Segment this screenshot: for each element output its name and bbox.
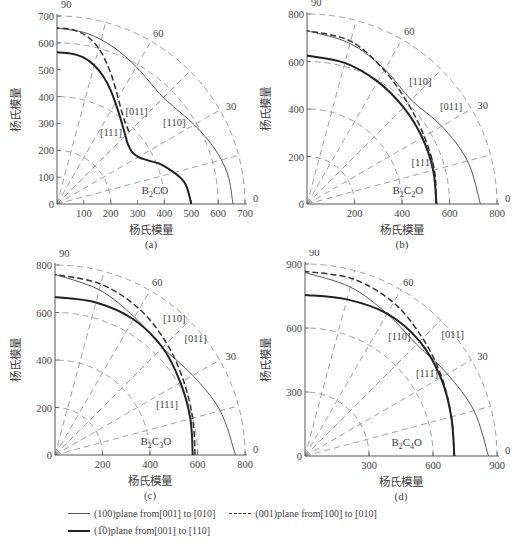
- y-tick-label: 400: [36, 355, 52, 366]
- series-thin-curve: [55, 275, 236, 456]
- grid-radial: [307, 20, 356, 204]
- grid-radial: [57, 155, 239, 204]
- angle-label: 60: [153, 28, 164, 39]
- x-tick-label: 800: [489, 208, 505, 219]
- annotation-label: [111]: [416, 368, 438, 379]
- series-dashed-curve: [305, 271, 454, 456]
- annotation-label: [011]: [440, 101, 462, 112]
- panel-label-d: (d): [395, 490, 408, 502]
- y-tick-label: 800: [288, 9, 304, 20]
- polar-chart-a: 1002003004005006007000100200300400500600…: [0, 0, 262, 250]
- x-axis-title: 杨氏模量: [129, 223, 173, 236]
- panel-label-a: (a): [145, 238, 158, 250]
- x-tick-label: 600: [210, 208, 226, 219]
- x-tick-label: 500: [183, 208, 199, 219]
- y-tick-label: 0: [49, 199, 54, 210]
- y-axis-title: 杨氏模量: [259, 338, 272, 382]
- polar-chart-b: 20040060080002004006008009060300[110][01…: [250, 0, 525, 250]
- y-tick-label: 200: [36, 403, 52, 414]
- y-tick-label: 900: [286, 259, 302, 270]
- grid-radial: [305, 290, 401, 456]
- series-thick-curve: [57, 52, 191, 204]
- y-tick-label: 100: [38, 172, 54, 183]
- legend-item-1-10-plane: (1̅0)plane from[001] to [110]: [68, 525, 210, 536]
- legend-item-100-plane: (100)plane from[001] to [010]: [68, 508, 215, 519]
- x-tick-label: 200: [103, 208, 119, 219]
- legend-item-001-plane: (001)plane from[100] to [010]: [229, 508, 376, 519]
- chart-panel-d: 30060090003006009009060300[110][011][111…: [250, 250, 525, 506]
- x-axis-title: 杨氏模量: [379, 475, 423, 488]
- x-tick-label: 400: [157, 208, 173, 219]
- legend-label: (100)plane from[001] to [010]: [94, 508, 215, 519]
- panel-label-c: (c): [144, 489, 157, 502]
- y-tick-label: 0: [47, 450, 52, 461]
- angle-label: 60: [404, 26, 415, 37]
- annotation-label: [110]: [163, 117, 185, 128]
- grid: [307, 14, 497, 204]
- y-tick-label: 300: [286, 387, 302, 398]
- polar-chart-d: 30060090003006009009060300[110][011][111…: [250, 250, 525, 502]
- compound-label: B2C2O: [393, 184, 424, 199]
- annotation-label: [111]: [100, 127, 122, 138]
- x-tick-label: 200: [95, 459, 111, 470]
- y-tick-label: 400: [288, 104, 304, 115]
- annotation-label: [110]: [388, 331, 410, 342]
- grid: [55, 265, 245, 455]
- x-axis-title: 杨氏模量: [128, 474, 172, 487]
- grid-radial: [55, 290, 150, 455]
- annotation-label: [110]: [409, 76, 431, 87]
- legend-label: (1̅0)plane from[001] to [110]: [94, 525, 210, 536]
- grid-radial: [307, 155, 491, 204]
- y-tick-label: 400: [38, 92, 54, 103]
- angle-label: 90: [311, 0, 322, 8]
- chart-panel-b: 20040060080002004006008009060300[110][01…: [250, 0, 525, 254]
- angle-label: 60: [403, 277, 414, 288]
- chart-panel-a: 1002003004005006007000100200300400500600…: [0, 0, 262, 254]
- x-tick-label: 400: [394, 208, 410, 219]
- polar-chart-c: 20040060080002004006008009060300[110][01…: [0, 250, 262, 502]
- legend-label: (001)plane from[100] to [010]: [255, 508, 376, 519]
- y-tick-label: 600: [38, 38, 54, 49]
- grid-radial: [305, 406, 490, 456]
- angle-label: 0: [505, 193, 510, 204]
- annotation-label: [011]: [442, 329, 464, 340]
- angle-label: 0: [505, 445, 510, 456]
- angle-label: 30: [478, 100, 489, 111]
- grid-radial: [307, 39, 402, 204]
- x-tick-label: 300: [130, 208, 146, 219]
- annotation-label: [011]: [184, 333, 206, 344]
- grid-radial: [305, 271, 355, 456]
- angle-label: 30: [477, 351, 488, 362]
- x-tick-label: 400: [142, 459, 158, 470]
- y-tick-label: 600: [36, 308, 52, 319]
- grid: [57, 16, 245, 204]
- grid-radial: [307, 109, 472, 204]
- y-tick-label: 600: [286, 323, 302, 334]
- compound-label: B2CO: [142, 184, 169, 199]
- annotation-label: [011]: [125, 106, 147, 117]
- thin-line-icon: [68, 513, 90, 514]
- y-tick-label: 200: [288, 152, 304, 163]
- dashed-line-icon: [229, 513, 251, 514]
- compound-label: B2C4O: [391, 436, 422, 451]
- x-tick-label: 900: [489, 460, 505, 471]
- angle-label: 90: [59, 250, 70, 259]
- y-tick-label: 0: [297, 451, 302, 462]
- y-axis-title: 杨氏模量: [259, 87, 272, 131]
- x-tick-label: 100: [76, 208, 92, 219]
- grid-radial: [55, 406, 239, 455]
- panel-label-b: (b): [396, 238, 409, 250]
- y-tick-label: 600: [288, 57, 304, 68]
- angle-label: 30: [226, 351, 237, 362]
- annotation-label: [111]: [412, 157, 434, 168]
- x-tick-label: 600: [442, 208, 458, 219]
- y-axis-title: 杨氏模量: [9, 338, 22, 382]
- grid: [305, 264, 497, 456]
- compound-label: B2C3O: [141, 435, 172, 450]
- y-tick-label: 800: [36, 260, 52, 271]
- y-tick-label: 0: [299, 199, 304, 210]
- y-tick-label: 700: [38, 11, 54, 22]
- grid-radial: [57, 22, 106, 204]
- grid-radial: [57, 41, 151, 204]
- angle-label: 30: [226, 101, 237, 112]
